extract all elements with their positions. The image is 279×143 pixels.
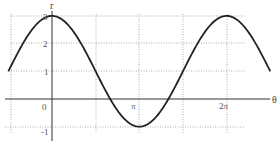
y-tick-neg1: -1 [41,127,49,137]
x-axis-label: θ [272,94,277,105]
x-tick-pi: π [131,101,136,111]
y-axis-label: r [50,0,54,11]
y-tick-1: 1 [44,67,49,77]
polar-function-graph: r θ 3 2 1 0 -1 π 2π [0,0,279,143]
x-tick-2pi: 2π [219,101,229,111]
y-tick-3: 3 [43,12,48,22]
grid [5,14,245,133]
x-tick-0: 0 [42,102,47,112]
y-tick-2: 2 [43,39,48,49]
